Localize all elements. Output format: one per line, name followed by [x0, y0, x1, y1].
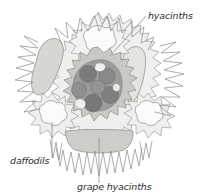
label-daffodils: daffodils: [10, 155, 49, 166]
bottom-crescent-shape: [66, 130, 133, 154]
label-grape-hyacinths: grape hyacinths: [77, 181, 152, 192]
planting-plan-illustration: hyacinths daffodils grape hyacinths: [0, 0, 203, 196]
grape-hyacinth-bulb: [72, 83, 87, 98]
bottom-crescent-band: [66, 130, 133, 154]
core-gap: [95, 63, 105, 71]
grape-hyacinth-bulb: [80, 66, 97, 83]
label-hyacinths: hyacinths: [148, 10, 193, 21]
grape-hyacinth-bulb: [84, 94, 102, 112]
garden-planting-diagram: hyacinths daffodils grape hyacinths: [0, 0, 203, 196]
grape-hyacinth-bulb: [91, 80, 105, 94]
